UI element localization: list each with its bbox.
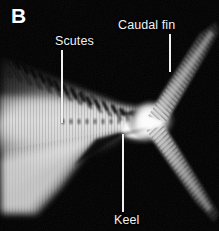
- annotation-leader-line-scutes: [61, 50, 63, 123]
- radiograph-image: [0, 0, 219, 231]
- film-grain-overlay: [0, 0, 219, 231]
- figure-panel-b: B Scutes Caudal fin Keel: [0, 0, 219, 231]
- annotation-label-scutes: Scutes: [55, 35, 94, 48]
- annotation-label-caudal-fin: Caudal fin: [118, 19, 175, 32]
- annotation-label-keel: Keel: [114, 214, 139, 227]
- panel-letter: B: [11, 5, 26, 27]
- annotation-leader-line-keel: [122, 134, 124, 212]
- annotation-leader-line-caudal-fin: [169, 34, 171, 72]
